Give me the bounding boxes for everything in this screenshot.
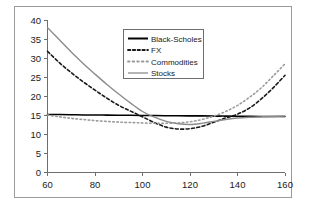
y-tick-label-35: 35 xyxy=(30,34,41,45)
y-tick-label-0: 0 xyxy=(36,167,41,178)
legend-label-stocks: Stocks xyxy=(151,69,175,78)
y-tick-label-20: 20 xyxy=(30,91,41,102)
y-tick-label-15: 15 xyxy=(30,110,41,121)
y-tick-label-5: 5 xyxy=(36,148,41,159)
x-tick-label-160: 160 xyxy=(277,179,293,190)
line-chart: 0 5 10 15 20 25 30 35 40 60 80 100 120 1… xyxy=(0,0,310,208)
legend-label-black-scholes: Black-Scholes xyxy=(151,35,202,44)
y-tick-label-25: 25 xyxy=(30,72,41,83)
chart-legend: Black-Scholes FX Commodities Stocks xyxy=(124,30,204,79)
chart-figure: 0 5 10 15 20 25 30 35 40 60 80 100 120 1… xyxy=(0,0,310,208)
x-axis-ticks xyxy=(48,173,286,177)
x-axis-labels: 60 80 100 120 140 160 xyxy=(42,179,293,190)
series-line-black-scholes xyxy=(48,115,286,117)
x-tick-label-80: 80 xyxy=(90,179,101,190)
x-tick-label-120: 120 xyxy=(182,179,198,190)
x-tick-label-140: 140 xyxy=(230,179,246,190)
x-tick-label-60: 60 xyxy=(42,179,53,190)
x-tick-label-100: 100 xyxy=(135,179,151,190)
legend-label-fx: FX xyxy=(151,46,162,55)
y-axis-labels: 0 5 10 15 20 25 30 35 40 xyxy=(30,15,41,179)
y-axis-ticks xyxy=(44,20,48,173)
y-tick-label-10: 10 xyxy=(30,129,41,140)
y-tick-label-40: 40 xyxy=(30,15,41,26)
legend-label-commodities: Commodities xyxy=(151,58,198,67)
y-tick-label-30: 30 xyxy=(30,53,41,64)
